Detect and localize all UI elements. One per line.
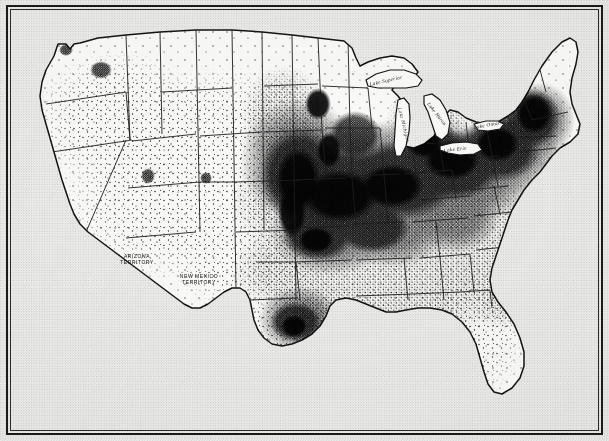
arizona-territory-line2: TERRITORY — [120, 259, 154, 265]
map-page: Lake Superior Lake Michigan Lake Huron L… — [0, 0, 609, 441]
new-mexico-territory-line2: TERRITORY — [182, 279, 216, 285]
us-population-map: Lake Superior Lake Michigan Lake Huron L… — [0, 0, 609, 441]
